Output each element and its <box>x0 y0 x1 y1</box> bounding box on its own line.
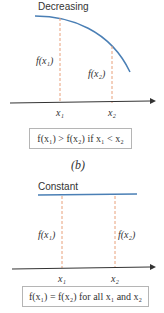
axis-arrow-icon <box>150 264 156 270</box>
label-f-x2: f(x₂) <box>88 68 106 80</box>
title-constant: Constant <box>38 181 78 192</box>
axis-arrow-icon <box>150 98 156 104</box>
label-f-x2: f(x₂) <box>118 229 136 241</box>
constant-line <box>38 194 137 195</box>
tick-x2: x₂ <box>110 273 119 284</box>
tick-x1: x₁ <box>55 107 64 118</box>
title-decreasing: Decreasing <box>38 1 89 12</box>
tick-x1: x₁ <box>57 273 66 284</box>
x-axis <box>12 267 150 269</box>
condition-box-decreasing: f(x₁) > f(x₂) if x₁ < x₂ <box>29 128 132 149</box>
panel-caption-b: (b) <box>71 158 85 173</box>
condition-box-constant: f(x₁) = f(x₂) for all x₁ and x₂ <box>22 286 149 307</box>
function-diagrams: Decreasing f(x₁) f(x₂) x₁ x₂ Constant f(… <box>0 0 164 313</box>
label-f-x1: f(x₁) <box>38 229 56 241</box>
tick-x2: x₂ <box>107 107 116 118</box>
x-axis <box>10 101 150 103</box>
label-f-x1: f(x₁) <box>36 55 54 67</box>
